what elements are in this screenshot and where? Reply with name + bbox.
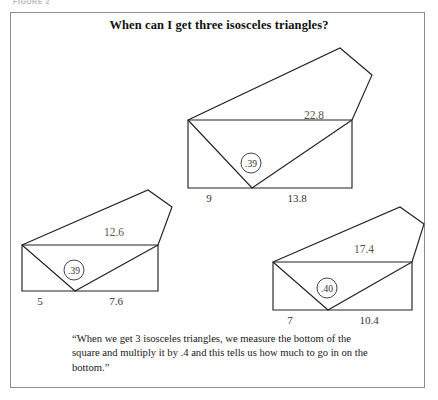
large-crease-lines <box>188 120 352 188</box>
medium-ratio-label: .40 <box>321 284 333 294</box>
small-rectangle-outline <box>22 245 158 291</box>
isosceles-figure-small: 5 7.6 12.6 .39 <box>22 190 172 307</box>
small-crease-lines <box>22 245 158 291</box>
medium-flap-outline <box>273 207 424 262</box>
medium-hypotenuse-label: 17.4 <box>354 243 374 255</box>
small-hypotenuse-label: 12.6 <box>104 226 124 238</box>
isosceles-figure-large: 9 13.8 22.8 .39 <box>188 48 372 204</box>
small-flap-outline <box>22 190 172 245</box>
large-left-base-label: 9 <box>206 192 212 204</box>
small-right-base-label: 7.6 <box>109 295 123 307</box>
small-ratio-label: .39 <box>68 266 80 276</box>
isosceles-figure-medium: 7 10.4 17.4 .40 <box>273 207 424 326</box>
large-hypotenuse-label: 22.8 <box>304 109 324 121</box>
large-right-base-label: 13.8 <box>287 192 307 204</box>
small-left-base-label: 5 <box>37 295 43 307</box>
medium-crease-lines <box>273 262 412 310</box>
medium-right-base-label: 10.4 <box>359 314 379 326</box>
large-ratio-label: .39 <box>245 159 257 169</box>
figure-quote-text: “When we get 3 isosceles triangles, we m… <box>72 332 372 375</box>
large-rectangle-outline <box>188 120 352 188</box>
medium-rectangle-outline <box>273 262 412 310</box>
medium-left-base-label: 7 <box>287 314 293 326</box>
large-flap-outline <box>188 48 372 120</box>
